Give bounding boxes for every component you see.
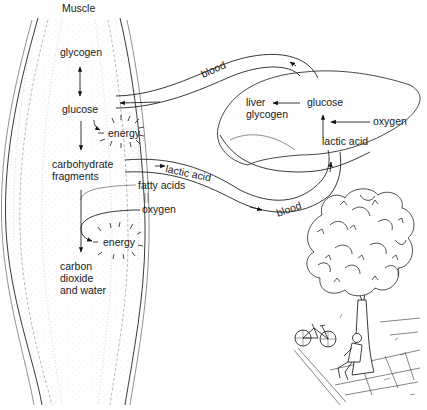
node-fatty-acids: fatty acids: [138, 179, 185, 191]
vessel-top-label: blood: [199, 58, 227, 79]
node-liver-glucose: glucose: [307, 96, 343, 108]
node-liver-oxygen: oxygen: [373, 115, 407, 127]
node-glucose: glucose: [62, 103, 98, 115]
node-liver-lactic-acid: lactic acid: [322, 135, 368, 147]
cori-cycle-diagram: Muscle glycogen glucose energy carbohydr…: [0, 0, 427, 410]
liver: liver glycogen glucose oxygen lactic aci…: [217, 71, 420, 172]
tree-canopy: [307, 189, 414, 296]
muscle-title: Muscle: [62, 2, 95, 14]
blood-to-liver-arrow: [250, 207, 262, 210]
node-oxygen-muscle: oxygen: [142, 203, 176, 215]
node-glycogen: glycogen: [60, 46, 102, 58]
node-energy-top: energy: [108, 127, 141, 139]
tree-illustration: [294, 189, 420, 405]
vessel-bottom-blood-label: blood: [275, 199, 303, 219]
muscle-body: [4, 18, 145, 405]
muscle: Muscle glycogen glucose energy carbohydr…: [1, 2, 185, 405]
node-energy-bottom: energy: [103, 236, 136, 248]
bicycle: [295, 324, 336, 347]
glucose-out-arrow: [290, 62, 296, 66]
lactic-into-liver-arrow: [330, 162, 331, 172]
